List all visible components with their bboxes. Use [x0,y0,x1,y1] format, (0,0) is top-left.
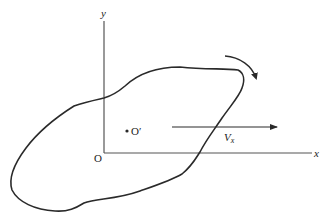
rotation-arrow [225,56,256,78]
velocity-label-subscript: x [230,136,235,145]
y-axis-label: y [100,7,106,19]
velocity-label: Vx [224,131,235,145]
rigid-body-outline [11,67,244,211]
origin-label: O [94,152,102,164]
diagram-canvas: y x O Vx O′ [0,0,328,220]
body-center-label: O′ [131,125,141,137]
x-axis-label: x [313,147,319,159]
body-center-point [125,129,128,132]
